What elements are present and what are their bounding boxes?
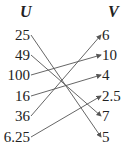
mapping-arrows [0,0,126,154]
mapping-arrow [31,55,101,75]
mapping-arrow [31,75,101,96]
mapping-arrow [31,96,101,137]
mapping-arrow [31,35,101,116]
